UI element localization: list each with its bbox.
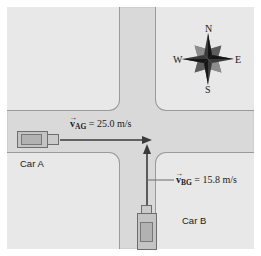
arrow-up-icon [143,144,151,205]
velocity-subscript-b: BG [181,178,192,187]
arrow-right-icon [60,136,152,144]
compass-label-west: W [173,54,182,65]
vector-arrow-icon-a: → [69,114,77,122]
velocity-label-car-b: →vBG = 15.8 m/s [176,175,237,185]
velocity-subscript-a: AG [75,122,86,131]
velocity-value-a: = 25.0 m/s [89,118,132,129]
compass-label-south: S [205,84,211,95]
compass-label-east: E [235,54,241,65]
velocity-label-car-a: →vAG = 25.0 m/s [70,119,131,129]
vector-arrow-icon-b: → [175,170,183,178]
velocity-value-b: = 15.8 m/s [194,174,237,185]
compass-rose: N S W E [173,23,243,95]
label-car-a: Car A [20,159,44,169]
label-car-b: Car B [182,216,206,226]
intersection-diagram: →vAG = 25.0 m/s →vBG = 15.8 m/s Car A Ca… [0,0,261,256]
compass-label-north: N [205,23,212,34]
